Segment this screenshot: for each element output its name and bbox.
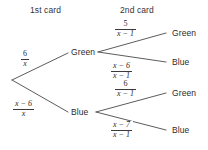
probability-blue-green-denominator: x − 1 [115,89,136,99]
probability-first-blue-denominator: x [13,109,34,119]
node-first-green: Green [70,47,96,57]
probability-first-green: 6 x [20,50,30,68]
probability-green-green: 5 x − 1 [114,20,137,38]
probability-green-blue: x − 6 x − 1 [110,62,133,80]
probability-first-blue: x − 6 x [12,100,35,118]
probability-blue-blue: x − 7 x − 1 [110,121,133,139]
column-header-second-card: 2nd card [120,5,154,15]
leaf-blue-green: Green [172,88,196,98]
probability-blue-blue-denominator: x − 1 [111,130,132,140]
probability-tree-diagram: 1st card 2nd card Green Blue Green Blue … [0,0,208,150]
leaf-green-green: Green [172,28,196,38]
probability-blue-green-numerator: 6 [115,80,136,89]
branch-green-to-blue [98,52,166,62]
column-header-first-card: 1st card [30,5,61,15]
probability-first-green-numerator: 6 [21,50,29,59]
probability-first-green-denominator: x [21,59,29,69]
probability-first-blue-numerator: x − 6 [13,100,34,109]
node-first-blue: Blue [70,107,89,117]
probability-green-blue-denominator: x − 1 [111,71,132,81]
probability-blue-blue-numerator: x − 7 [111,121,132,130]
probability-green-blue-numerator: x − 6 [111,62,132,71]
probability-green-green-denominator: x − 1 [115,29,136,39]
probability-blue-green: 6 x − 1 [114,80,137,98]
leaf-blue-blue: Blue [172,125,189,135]
leaf-green-blue: Blue [172,57,189,67]
probability-green-green-numerator: 5 [115,20,136,29]
